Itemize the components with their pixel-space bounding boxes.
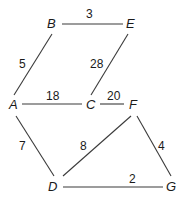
node-A: A — [8, 97, 18, 112]
node-E: E — [126, 16, 135, 31]
weight-A-C: 18 — [46, 89, 60, 103]
weight-C-E: 28 — [90, 57, 104, 71]
node-G: G — [166, 179, 176, 194]
weight-A-D: 7 — [19, 139, 26, 153]
edge-F-G — [137, 116, 171, 176]
weight-A-B: 5 — [19, 57, 26, 71]
weight-D-F: 8 — [80, 139, 87, 153]
node-B: B — [47, 16, 56, 31]
weight-C-F: 20 — [107, 89, 121, 103]
weight-F-G: 4 — [158, 139, 165, 153]
node-C: C — [86, 97, 96, 112]
node-F: F — [129, 97, 138, 112]
graph-diagram: A B C D E F G 3 5 28 18 20 7 8 4 2 — [0, 0, 184, 202]
edge-D-F — [63, 116, 131, 176]
weight-B-E: 3 — [86, 7, 93, 21]
node-D: D — [48, 179, 57, 194]
weight-D-G: 2 — [129, 172, 136, 186]
